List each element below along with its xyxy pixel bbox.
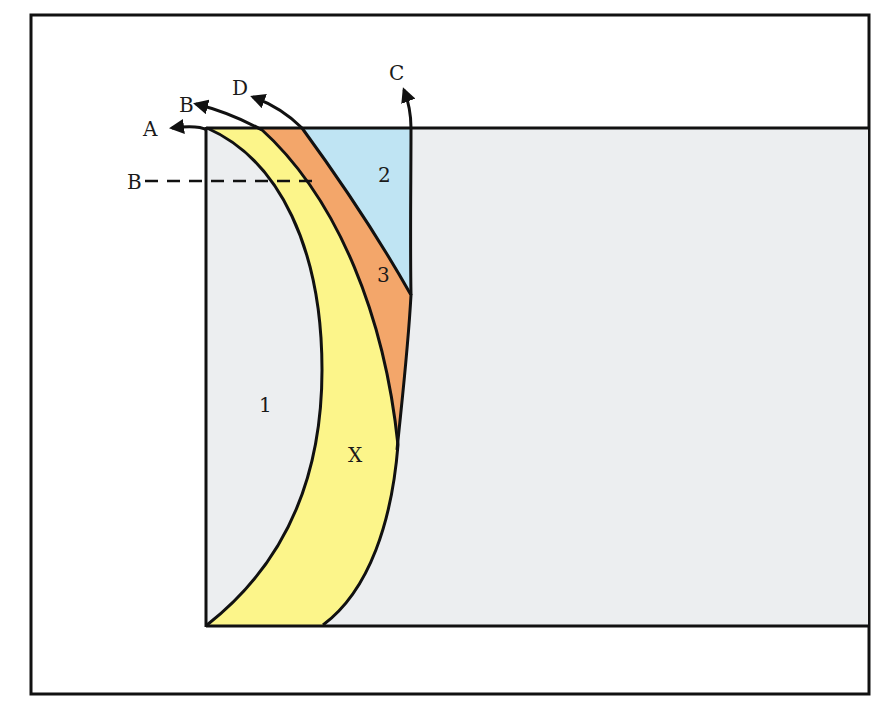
label-region-1: 1: [259, 393, 272, 417]
label-region-x: X: [348, 443, 363, 467]
label-section-b: B: [127, 170, 142, 194]
label-arrow-a: A: [142, 117, 158, 141]
label-arrow-b: B: [179, 93, 194, 117]
label-arrow-c: C: [389, 61, 404, 85]
diagram: A B D C B 1 2 3 X: [0, 0, 894, 714]
label-region-3: 3: [377, 263, 390, 287]
label-arrow-d: D: [232, 76, 248, 100]
label-region-2: 2: [378, 163, 391, 187]
